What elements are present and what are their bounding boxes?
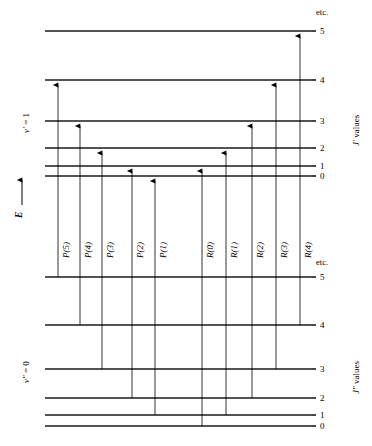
lower-state-quantum-number-4: 4 — [320, 321, 325, 330]
transition-label-R4: R(4) — [304, 242, 313, 258]
transition-label-P2: P(2) — [136, 242, 145, 258]
lower-state-quantum-number-1: 1 — [320, 411, 325, 420]
upper-vibrational-state-label: v′ = 1 — [22, 113, 31, 133]
lower-vibrational-state-label: v″ = 0 — [22, 361, 31, 383]
upper-state-quantum-number-4: 4 — [320, 76, 325, 85]
lower-state-quantum-number-5: 5 — [320, 273, 325, 282]
transition-arrows — [58, 36, 300, 426]
upper-j-values-axis-label: J′ values — [352, 115, 361, 146]
rovibrational-energy-level-diagram: 012345012345P(5)P(4)P(3)P(2)P(1)R(0)R(1)… — [0, 0, 372, 446]
lower-state-level-lines — [45, 277, 316, 426]
upper-etc-label: etc. — [316, 8, 328, 17]
lower-etc-label: etc. — [316, 258, 328, 267]
transition-label-P3: P(3) — [106, 242, 115, 258]
lower-j-values-axis-label: J″ values — [352, 361, 361, 394]
upper-state-quantum-number-0: 0 — [320, 172, 325, 181]
transition-label-R0: R(0) — [206, 242, 215, 258]
lower-state-quantum-number-0: 0 — [320, 422, 325, 431]
energy-axis-label: E — [15, 212, 25, 218]
transition-label-R3: R(3) — [280, 242, 289, 258]
transition-label-P4: P(4) — [84, 242, 93, 258]
lower-state-quantum-number-2: 2 — [320, 394, 325, 403]
lower-state-quantum-number-3: 3 — [320, 365, 325, 374]
transition-label-P1: P(1) — [159, 242, 168, 258]
transition-label-R2: R(2) — [256, 242, 265, 258]
upper-state-level-lines — [45, 31, 316, 176]
upper-state-quantum-number-2: 2 — [320, 144, 325, 153]
upper-state-quantum-number-3: 3 — [320, 117, 325, 126]
upper-state-quantum-number-1: 1 — [320, 162, 325, 171]
transition-label-P5: P(5) — [62, 242, 71, 258]
upper-state-quantum-number-5: 5 — [320, 27, 325, 36]
diagram-canvas — [0, 0, 372, 446]
transition-label-R1: R(1) — [230, 242, 239, 258]
